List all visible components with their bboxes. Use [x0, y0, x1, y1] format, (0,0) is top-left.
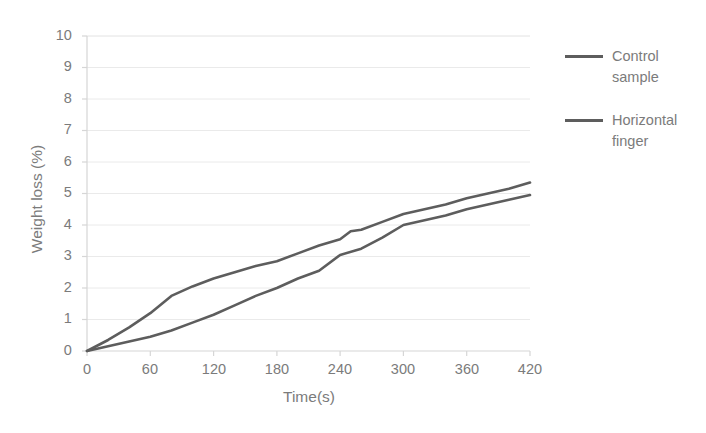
- x-tick-label: 360: [442, 361, 492, 377]
- y-axis-ticks: [82, 36, 87, 351]
- y-axis-title: Weight loss (%): [28, 99, 46, 299]
- chart-legend: Control sample Horizontal finger: [560, 46, 706, 174]
- gridlines: [87, 36, 530, 320]
- legend-item-horizontal-finger: Horizontal finger: [560, 110, 706, 156]
- series-line-horizontal-finger: [87, 182, 530, 351]
- series-paths: [87, 182, 530, 351]
- x-tick-label: 60: [125, 361, 175, 377]
- x-axis-title: Time(s): [0, 388, 618, 406]
- legend-label: Horizontal finger: [612, 110, 706, 152]
- y-tick-label: 10: [38, 27, 72, 43]
- legend-item-control-sample: Control sample: [560, 46, 706, 92]
- line-chart: 10 9 8 7 6 5 4 3 2 1 0 0 60 120 180 240 …: [0, 0, 706, 433]
- series-line-control-sample: [87, 195, 530, 351]
- y-tick-label: 1: [38, 310, 72, 326]
- y-tick-label: 9: [38, 58, 72, 74]
- y-tick-label: 0: [38, 342, 72, 358]
- x-tick-label: 300: [378, 361, 428, 377]
- legend-swatch-icon: [565, 119, 603, 122]
- legend-swatch-icon: [565, 55, 603, 58]
- x-tick-label: 180: [252, 361, 302, 377]
- x-tick-label: 0: [62, 361, 112, 377]
- legend-label: Control sample: [612, 46, 706, 88]
- x-tick-label: 420: [505, 361, 555, 377]
- x-tick-label: 240: [315, 361, 365, 377]
- x-axis-ticks: [87, 351, 530, 356]
- x-tick-label: 120: [189, 361, 239, 377]
